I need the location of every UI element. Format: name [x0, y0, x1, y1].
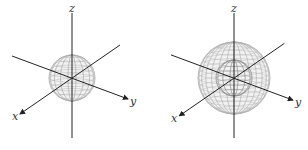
z-axis-label: z [68, 2, 75, 15]
y-axis-label: y [294, 96, 302, 109]
x-axis-label: x [12, 110, 19, 123]
figure-canvas: zyx zyx [0, 0, 308, 150]
figure-left: zyx [12, 2, 137, 138]
x-axis-label: x [171, 112, 178, 125]
y-axis-label: y [129, 95, 137, 108]
z-axis-label: z [230, 2, 237, 15]
figure-right: zyx [171, 2, 302, 138]
